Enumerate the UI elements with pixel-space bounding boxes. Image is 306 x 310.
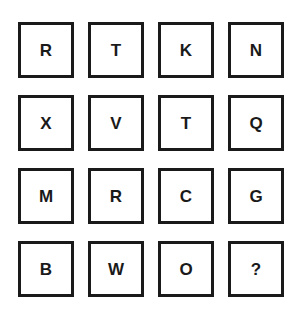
grid-cell-r4c4-missing: ? — [228, 241, 284, 297]
cell-letter: M — [39, 188, 53, 205]
cell-letter: V — [110, 115, 121, 132]
cell-letter: G — [249, 188, 262, 205]
letter-grid: R T K N X V T Q M R C G B W O ? — [18, 22, 284, 297]
grid-cell-r3c2: R — [88, 168, 144, 224]
cell-letter: R — [110, 188, 122, 205]
grid-cell-r4c2: W — [88, 241, 144, 297]
grid-cell-r1c4: N — [228, 22, 284, 78]
grid-cell-r3c3: C — [158, 168, 214, 224]
grid-cell-r2c4: Q — [228, 95, 284, 151]
cell-letter: T — [181, 115, 191, 132]
grid-cell-r3c1: M — [18, 168, 74, 224]
cell-letter: N — [250, 42, 262, 59]
grid-cell-r4c1: B — [18, 241, 74, 297]
grid-cell-r3c4: G — [228, 168, 284, 224]
cell-letter: Q — [249, 115, 262, 132]
grid-cell-r2c2: V — [88, 95, 144, 151]
cell-letter: B — [40, 261, 52, 278]
question-mark-icon: ? — [251, 261, 261, 278]
cell-letter: W — [108, 261, 124, 278]
grid-cell-r1c1: R — [18, 22, 74, 78]
grid-cell-r2c3: T — [158, 95, 214, 151]
grid-cell-r2c1: X — [18, 95, 74, 151]
grid-cell-r1c3: K — [158, 22, 214, 78]
cell-letter: O — [179, 261, 192, 278]
cell-letter: R — [40, 42, 52, 59]
grid-cell-r1c2: T — [88, 22, 144, 78]
cell-letter: C — [180, 188, 192, 205]
grid-cell-r4c3: O — [158, 241, 214, 297]
cell-letter: K — [180, 42, 192, 59]
cell-letter: T — [111, 42, 121, 59]
cell-letter: X — [40, 115, 51, 132]
